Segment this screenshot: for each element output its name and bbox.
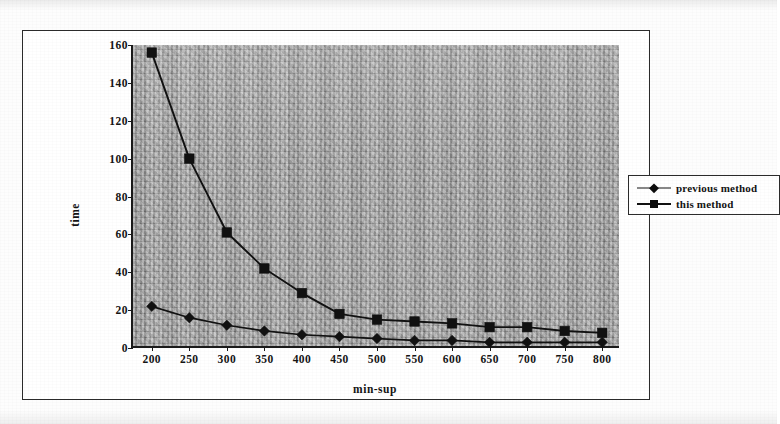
y-axis-tick-label: 80 [116, 191, 129, 203]
legend-label-this-method: this method [676, 198, 734, 210]
x-axis-tick-label: 650 [480, 353, 498, 365]
y-axis-tick-label: 40 [116, 266, 129, 278]
diamond-data-point [297, 330, 307, 340]
x-axis-tick-label: 800 [593, 353, 611, 365]
square-marker-icon [637, 198, 671, 210]
square-data-point [485, 322, 495, 332]
scan-edge-top [0, 0, 777, 10]
diamond-data-point [147, 301, 157, 311]
square-data-point [185, 154, 195, 164]
chart-legend: previous method this method [628, 175, 780, 215]
scan-edge-bottom [0, 410, 777, 424]
y-axis-tick-mark [128, 348, 133, 349]
diamond-data-point [447, 335, 457, 345]
chart-outer-frame: 020406080100120140160 200250300350400450… [22, 30, 650, 400]
x-axis-tick-label: 450 [330, 353, 348, 365]
diamond-data-point [222, 320, 232, 330]
y-axis-tick-label: 100 [109, 153, 128, 165]
y-axis-tick-label: 140 [109, 77, 128, 89]
square-data-point [297, 288, 307, 298]
square-data-point [260, 264, 270, 274]
y-axis-tick-label: 120 [109, 115, 128, 127]
x-axis-tick-label: 400 [293, 353, 311, 365]
series-this-method [147, 48, 607, 338]
diamond-data-point [522, 337, 532, 347]
diamond-data-point [372, 333, 382, 343]
x-axis-tick-label: 700 [518, 353, 536, 365]
diamond-data-point [184, 313, 194, 323]
legend-item-previous-method: previous method [637, 180, 779, 196]
legend-label-previous-method: previous method [676, 182, 757, 194]
diamond-data-point [409, 335, 419, 345]
x-axis-tick-label: 250 [180, 353, 198, 365]
x-axis-tick-label: 200 [143, 353, 161, 365]
diamond-marker-icon [637, 182, 671, 194]
legend-item-this-method: this method [637, 196, 779, 212]
x-axis-tick-label: 550 [405, 353, 423, 365]
diamond-data-point [334, 331, 344, 341]
square-data-point [522, 322, 532, 332]
y-axis-tick-label: 60 [116, 228, 129, 240]
x-axis-tick-label: 600 [443, 353, 461, 365]
x-axis-tick-label: 300 [218, 353, 236, 365]
x-axis-tick-label: 750 [555, 353, 573, 365]
square-data-point [222, 228, 232, 238]
x-axis-title: min-sup [131, 383, 619, 395]
y-axis-tick-label: 20 [116, 304, 129, 316]
diamond-data-point [597, 337, 607, 347]
square-data-point [335, 309, 345, 319]
series-line [152, 53, 602, 333]
square-data-point [597, 328, 607, 338]
square-data-point [147, 48, 157, 58]
diamond-data-point [484, 337, 494, 347]
square-data-point [560, 326, 570, 336]
x-axis-tick-label: 350 [255, 353, 273, 365]
square-data-point [372, 315, 382, 325]
square-data-point [447, 319, 457, 329]
x-axis-tick-label: 500 [368, 353, 386, 365]
series-layer [133, 45, 621, 348]
y-axis-tick-label: 160 [109, 39, 128, 51]
diamond-data-point [259, 326, 269, 336]
plot-area: 020406080100120140160 200250300350400450… [131, 45, 619, 348]
diamond-data-point [559, 337, 569, 347]
square-data-point [410, 317, 420, 327]
y-axis-title: time [69, 203, 81, 226]
